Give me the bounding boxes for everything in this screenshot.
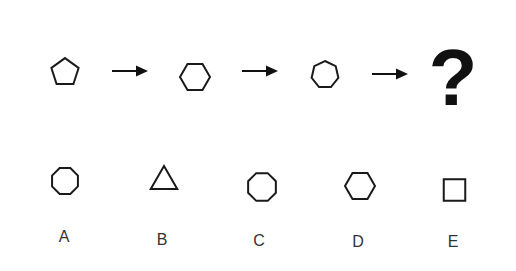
- option-label: A: [59, 228, 70, 245]
- option-label: C: [253, 232, 265, 249]
- option-label: D: [352, 233, 364, 250]
- question-mark: ?: [429, 33, 478, 122]
- option-label: E: [448, 233, 459, 250]
- option-label: B: [157, 231, 168, 248]
- puzzle-canvas: ? A B C D E: [0, 0, 516, 271]
